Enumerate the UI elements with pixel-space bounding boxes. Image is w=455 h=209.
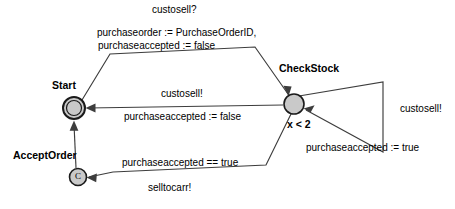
state-machine-diagram: Start CheckStock AcceptOrder x < 2 C cus…	[0, 0, 455, 209]
node-start-inner-circle	[67, 101, 82, 116]
transition-label-custosell-send-mid: custosell!	[161, 88, 203, 99]
node-check-stock[interactable]	[284, 94, 304, 114]
node-check-stock-guard: x < 2	[287, 119, 311, 130]
edge-checkstock-to-acceptorder-arrowhead	[87, 174, 97, 183]
node-start[interactable]	[63, 97, 85, 119]
node-check-stock-label: CheckStock	[279, 63, 339, 74]
transition-label-purchaseaccepted-false-top: purchaseaccepted := false	[98, 40, 215, 51]
transition-label-purchaseaccepted-false-mid: purchaseaccepted := false	[124, 111, 241, 122]
node-check-stock-circle	[284, 94, 304, 114]
edge-checkstock-to-acceptorder[interactable]	[87, 114, 292, 182]
edge-checkstock-to-start-arrowhead	[86, 104, 96, 113]
transition-label-purchaseorder-assign: purchaseorder := PurchaseOrderID,	[97, 27, 256, 38]
transition-label-selltocarr-send: selltocarr!	[148, 182, 191, 193]
transition-label-custosell-send-loop: custosell!	[400, 103, 442, 114]
transition-label-purchaseaccepted-eq-true: purchaseaccepted == true	[122, 157, 238, 168]
node-accept-order-inner-text: C	[75, 171, 81, 182]
edge-checkstock-to-start-line	[88, 105, 283, 108]
node-start-label: Start	[52, 80, 76, 91]
transition-label-purchaseaccepted-true-loop: purchaseaccepted := true	[306, 142, 419, 153]
node-accept-order-label: AcceptOrder	[13, 150, 77, 161]
edge-acceptorder-to-start-arrowhead	[70, 121, 79, 131]
edge-checkstock-self-loop-arrowhead	[304, 105, 315, 112]
transition-label-custosell-receive: custosell?	[152, 4, 196, 15]
